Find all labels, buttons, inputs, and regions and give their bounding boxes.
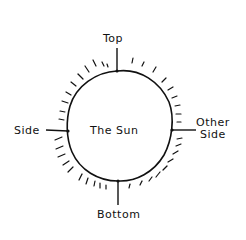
- top-dot: [115, 69, 118, 72]
- side-pointer-line: [46, 130, 68, 131]
- label-other-side: Other Side: [196, 117, 230, 141]
- label-bottom: Bottom: [97, 209, 140, 220]
- other-side-dot: [170, 128, 173, 131]
- label-top: Top: [103, 33, 123, 44]
- bottom-dot: [116, 179, 119, 182]
- label-side: Side: [14, 125, 40, 136]
- side-dot: [66, 129, 69, 132]
- center-label-the-sun: The Sun: [90, 125, 138, 136]
- label-other-side-line2: Side: [196, 129, 230, 141]
